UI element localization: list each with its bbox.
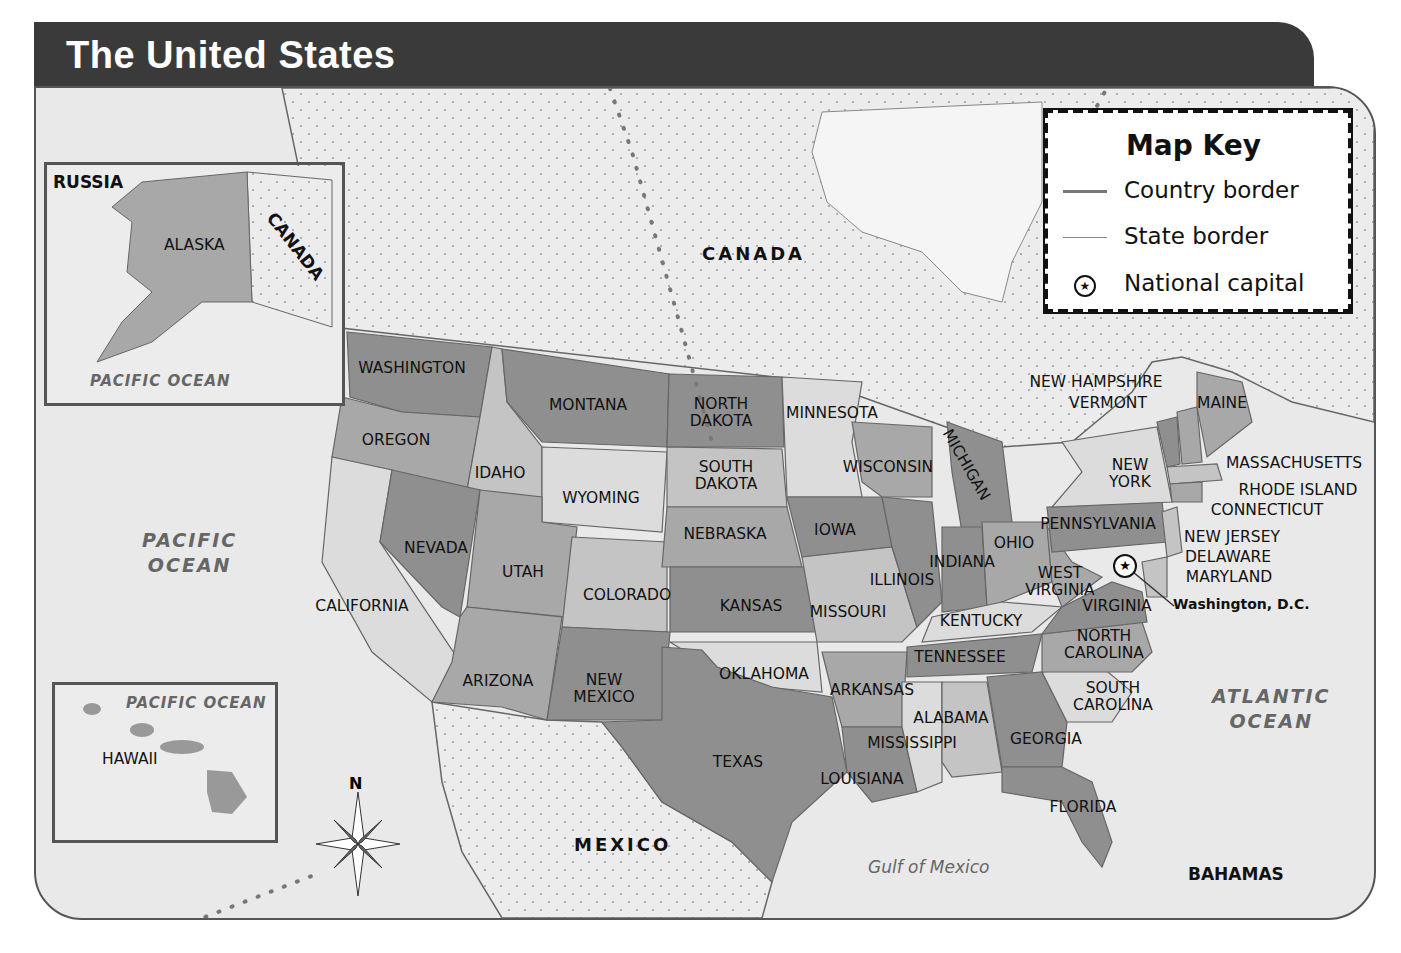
national-capital-marker[interactable]: ★ (1113, 554, 1137, 578)
state-label-west-virginia: WESTVIRGINIA (1025, 565, 1094, 599)
label-alaska: ALASKA (164, 237, 225, 254)
alaska-inset (44, 162, 345, 406)
state-label-indiana: INDIANA (929, 554, 994, 571)
label-canada: CANADA (702, 245, 805, 262)
national-capital-icon: ★ (1060, 269, 1110, 297)
map-key: Map Key Country border State border ★ Na… (1043, 108, 1353, 314)
state-border-line-icon (1060, 223, 1110, 249)
state-label-wisconsin: WISCONSIN (843, 459, 933, 476)
state-label-nevada: NEVADA (404, 540, 468, 557)
label-mexico: MEXICO (574, 836, 671, 853)
map-key-item-country-border: Country border (1060, 177, 1299, 203)
state-label-montana: MONTANA (549, 397, 627, 414)
state-label-alabama: ALABAMA (913, 710, 988, 727)
state-label-oregon: OREGON (362, 432, 431, 449)
state-label-north-carolina: NORTHCAROLINA (1064, 628, 1144, 662)
state-label-pennsylvania: PENNSYLVANIA (1040, 516, 1156, 533)
state-label-delaware: DELAWARE (1185, 549, 1271, 566)
label-hawaii: HAWAII (102, 751, 158, 768)
state-label-louisiana: LOUISIANA (820, 771, 903, 788)
state-label-new-jersey: NEW JERSEY (1184, 529, 1280, 546)
compass-icon (316, 792, 400, 896)
state-label-california: CALIFORNIA (315, 598, 408, 615)
state-label-texas: TEXAS (713, 754, 763, 771)
state-label-new-york: NEWYORK (1109, 457, 1151, 491)
map-key-item-national-capital: ★ National capital (1060, 269, 1304, 297)
state-label-minnesota: MINNESOTA (786, 405, 878, 422)
state-label-arkansas: ARKANSAS (830, 682, 914, 699)
label-bahamas: BAHAMAS (1188, 866, 1284, 883)
state-label-new-mexico: NEWMEXICO (573, 672, 634, 706)
state-label-nebraska: NEBRASKA (683, 526, 766, 543)
state-label-iowa: IOWA (814, 522, 856, 539)
state-label-tennessee: TENNESSEE (914, 649, 1006, 666)
state-label-maryland: MARYLAND (1186, 569, 1272, 586)
state-label-virginia: VIRGINIA (1082, 598, 1151, 615)
state-label-connecticut: CONNECTICUT (1211, 502, 1324, 519)
label-atlantic-ocean: ATLANTIC OCEAN (1212, 688, 1331, 730)
country-border-line-icon (1060, 177, 1110, 203)
state-label-maine: MAINE (1197, 395, 1247, 412)
state-label-mississippi: MISSISSIPPI (867, 735, 957, 752)
state-label-oklahoma: OKLAHOMA (719, 666, 809, 683)
state-label-washington: WASHINGTON (358, 360, 465, 377)
state-label-new-hampshire: NEW HAMPSHIRE (1029, 374, 1162, 391)
label-russia: RUSSIA (53, 174, 123, 191)
label-pacific-inset-alaska: PACIFIC OCEAN (90, 373, 231, 390)
state-label-kansas: KANSAS (720, 598, 783, 615)
state-label-illinois: ILLINOIS (870, 572, 935, 589)
state-label-arizona: ARIZONA (463, 673, 534, 690)
state-label-vermont: VERMONT (1069, 395, 1147, 412)
state-label-florida: FLORIDA (1050, 799, 1117, 816)
star-icon: ★ (1119, 558, 1131, 573)
state-label-missouri: MISSOURI (810, 604, 887, 621)
state-label-colorado: COLORADO (583, 587, 671, 604)
label-washington-dc: Washington, D.C. (1173, 596, 1309, 613)
map-title: The United States (66, 34, 395, 77)
compass-north-label: N (349, 774, 362, 793)
state-label-north-dakota: NORTHDAKOTA (690, 396, 753, 430)
map-key-title: Map Key (1126, 129, 1261, 162)
label-pacific-inset-hawaii: PACIFIC OCEAN (126, 695, 267, 712)
state-label-rhode-island: RHODE ISLAND (1239, 482, 1358, 499)
label-pacific-ocean: PACIFIC OCEAN (142, 532, 237, 574)
state-label-ohio: OHIO (994, 535, 1035, 552)
state-label-south-carolina: SOUTHCAROLINA (1073, 680, 1153, 714)
state-label-wyoming: WYOMING (562, 490, 640, 507)
state-label-south-dakota: SOUTHDAKOTA (695, 459, 758, 493)
state-label-idaho: IDAHO (475, 465, 526, 482)
map-key-item-state-border: State border (1060, 223, 1268, 249)
state-label-kentucky: KENTUCKY (940, 613, 1022, 630)
label-gulf-of-mexico: Gulf of Mexico (868, 859, 990, 876)
state-label-georgia: GEORGIA (1010, 731, 1082, 748)
state-label-massachusetts: MASSACHUSETTS (1226, 455, 1362, 472)
state-label-utah: UTAH (502, 564, 544, 581)
